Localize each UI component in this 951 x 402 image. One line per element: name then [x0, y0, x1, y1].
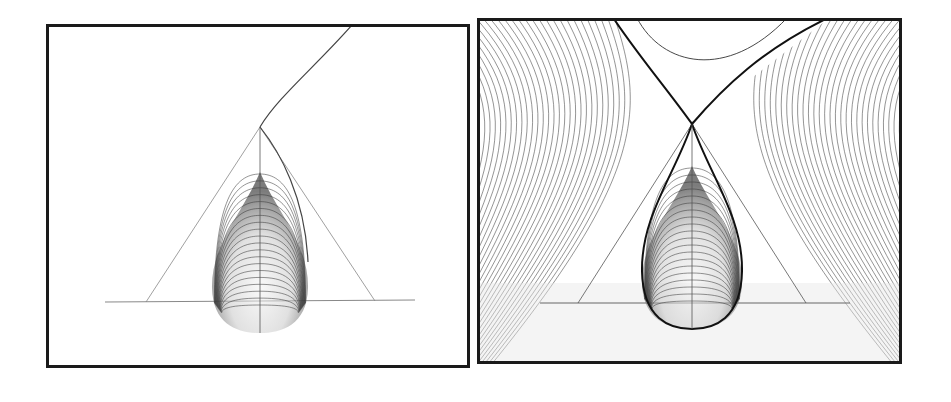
teardrop-contour-diagram	[49, 27, 470, 368]
left-panel	[46, 24, 470, 368]
right-panel	[477, 18, 902, 364]
separatrix-field-diagram	[480, 21, 902, 364]
